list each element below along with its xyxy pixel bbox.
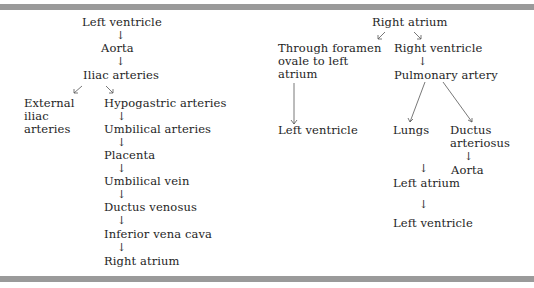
arrow-iliac-to-hypogastric xyxy=(106,86,113,93)
arrow-down-icon: ↓ xyxy=(117,137,126,148)
arrow-down-icon: ↓ xyxy=(117,111,126,122)
node-left-atrium: Left atrium xyxy=(393,177,460,190)
arrow-down-icon: ↓ xyxy=(464,151,473,162)
arrow-down-icon: ↓ xyxy=(117,163,126,174)
arrow-down-icon: ↓ xyxy=(117,242,126,253)
arrow-ra-to-rv xyxy=(414,32,421,39)
arrow-iliac-to-external xyxy=(74,86,82,93)
node-hypogastric-arteries: Hypogastric arteries xyxy=(104,97,227,110)
node-ductus-venosus: Ductus venosus xyxy=(104,201,197,214)
arrow-down-icon: ↓ xyxy=(419,199,428,210)
arrow-ra-to-foramen xyxy=(378,32,385,39)
node-lungs: Lungs xyxy=(393,124,429,137)
arrow-down-icon: ↓ xyxy=(418,56,427,67)
node-left-ventricle-2: Left ventricle xyxy=(278,124,358,137)
arrow-down-icon: ↓ xyxy=(116,30,125,41)
arrow-pa-to-ductus xyxy=(443,82,472,122)
arrow-down-icon: ↓ xyxy=(419,163,428,174)
arrow-down-icon: ↓ xyxy=(116,56,125,67)
node-external-iliac-line3: arteries xyxy=(24,123,70,136)
node-aorta: Aorta xyxy=(101,42,134,55)
node-pulmonary-artery: Pulmonary artery xyxy=(394,69,498,82)
node-umbilical-arteries: Umbilical arteries xyxy=(104,123,211,136)
node-left-ventricle: Left ventricle xyxy=(82,16,162,29)
node-inferior-vena-cava: Inferior vena cava xyxy=(104,228,212,241)
node-iliac-arteries: Iliac arteries xyxy=(83,69,159,82)
arrow-down-icon: ↓ xyxy=(117,189,126,200)
node-placenta: Placenta xyxy=(104,149,155,162)
arrow-pa-to-lungs xyxy=(410,82,425,122)
node-umbilical-vein: Umbilical vein xyxy=(104,175,189,188)
node-foramen-line3: atrium xyxy=(278,68,318,81)
node-left-ventricle-3: Left ventricle xyxy=(393,217,473,230)
node-ductus-arteriosus-line2: arteriosus xyxy=(450,137,510,150)
node-right-atrium-2: Right atrium xyxy=(372,16,448,29)
node-right-ventricle: Right ventricle xyxy=(394,42,482,55)
node-right-atrium: Right atrium xyxy=(104,255,180,268)
arrow-down-icon: ↓ xyxy=(117,215,126,226)
